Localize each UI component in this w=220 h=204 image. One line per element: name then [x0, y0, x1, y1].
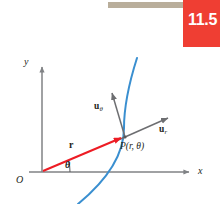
- header-rule: [108, 2, 185, 8]
- figure-container: 11.5 y x O θ r P(r, θ) uθ ur: [0, 0, 220, 204]
- blue-curve: [78, 58, 137, 204]
- unit-vector-r-label: ur: [159, 125, 167, 135]
- x-axis-label: x: [198, 166, 202, 176]
- point-p-label: P(r, θ): [120, 142, 144, 152]
- unit-vector-r-subscript: r: [164, 128, 167, 135]
- unit-vector-theta-label: uθ: [94, 102, 103, 112]
- polar-coordinate-diagram: [0, 0, 220, 204]
- position-vector-arrow: [43, 138, 121, 171]
- position-vector-label: r: [69, 140, 73, 150]
- unit-vector-theta-arrow: [112, 93, 125, 137]
- unit-vector-theta-subscript: θ: [99, 105, 102, 112]
- section-number: 11.5: [188, 12, 217, 28]
- y-axis-label: y: [24, 57, 28, 67]
- angle-theta-label: θ: [65, 160, 70, 170]
- origin-label: O: [16, 175, 23, 185]
- point-p-marker: [123, 135, 126, 138]
